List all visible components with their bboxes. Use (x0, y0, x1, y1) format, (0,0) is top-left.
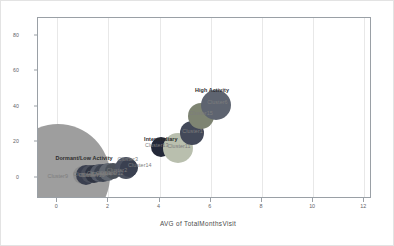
bubble-label-cluster15: Cluster15 (189, 110, 213, 116)
x-tick-mark-12 (363, 198, 364, 202)
x-tick-mark-2 (107, 198, 108, 202)
y-tick-mark-20 (34, 141, 37, 142)
chart-canvas: Cluster9Cluster8Cluster7Cluster10Cluster… (0, 0, 394, 246)
x-tick-label-0: 0 (55, 203, 58, 209)
x-tick-label-8: 8 (259, 203, 262, 209)
annotation-high-activity: High Activity (195, 87, 229, 93)
x-tick-mark-4 (159, 198, 160, 202)
x-tick-label-10: 10 (309, 203, 315, 209)
x-axis-title: AVG of TotalMonthsVisit (1, 220, 394, 227)
x-tick-label-2: 2 (106, 203, 109, 209)
bubble-label-cluster1: Cluster1 (182, 128, 202, 134)
gridline-x-8 (262, 18, 263, 197)
gridline-x-10 (313, 18, 314, 197)
bubble-label-cluster2: Cluster2 (107, 167, 127, 173)
x-tick-mark-6 (210, 198, 211, 202)
x-tick-mark-10 (312, 198, 313, 202)
x-tick-label-12: 12 (360, 203, 366, 209)
annotation-dormant-low-activity: Dormant/Low Activity (55, 155, 112, 161)
bubble-label-cluster9: Cluster9 (47, 173, 67, 179)
x-tick-label-6: 6 (208, 203, 211, 209)
x-tick-label-4: 4 (157, 203, 160, 209)
y-tick-mark-80 (34, 34, 37, 35)
bubble-label-cluster13: Cluster13 (145, 142, 169, 148)
annotation-intermediary: Intermediary (144, 136, 178, 142)
bubble-label-cluster11: Cluster11 (167, 143, 190, 149)
y-tick-label-80: 80 (0, 32, 19, 38)
y-tick-mark-40 (34, 105, 37, 106)
plot-area: Cluster9Cluster8Cluster7Cluster10Cluster… (37, 17, 371, 198)
gridline-x-4 (160, 18, 161, 197)
gridline-x-12 (364, 18, 365, 197)
y-tick-mark-0 (34, 176, 37, 177)
bubble-label-cluster14: Cluster14 (128, 162, 152, 168)
bubble-label-cluster6: Cluster6 (207, 99, 227, 105)
y-tick-label-60: 60 (0, 67, 19, 73)
y-tick-label-40: 40 (0, 103, 19, 109)
x-tick-mark-0 (56, 198, 57, 202)
y-tick-label-0: 0 (0, 174, 19, 180)
x-tick-mark-8 (261, 198, 262, 202)
y-tick-mark-60 (34, 70, 37, 71)
y-tick-label-20: 20 (0, 138, 19, 144)
